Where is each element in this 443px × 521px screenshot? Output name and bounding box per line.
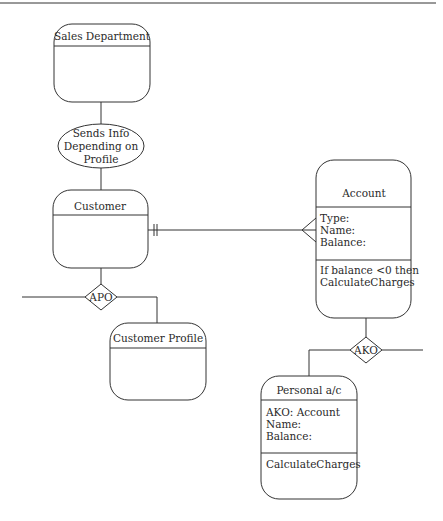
connector-customer-to-account <box>148 218 316 242</box>
relationship-label: APO <box>88 291 113 303</box>
connector-ako-to-personal <box>309 350 350 376</box>
process-label-line: Profile <box>84 153 119 165</box>
entity-method: CalculateCharges <box>266 458 361 470</box>
relationship-ako[interactable]: AKO <box>350 337 382 363</box>
entity-account[interactable]: Account Type: Name: Balance: If balance … <box>316 160 419 318</box>
entity-attribute: Balance: <box>266 430 312 442</box>
entity-attribute: AKO: Account <box>265 406 341 418</box>
entity-title: Account <box>341 187 386 199</box>
relationship-label: AKO <box>353 344 378 356</box>
diagram-canvas: Sales Department Sends Info Depending on… <box>0 0 443 521</box>
entity-sales-department[interactable]: Sales Department <box>54 24 151 102</box>
relationship-apo[interactable]: APO <box>85 284 117 310</box>
entity-attribute: Name: <box>320 224 355 236</box>
entity-title: Sales Department <box>54 30 151 42</box>
entity-customer-profile[interactable]: Customer Profile <box>110 323 206 400</box>
entity-personal-account[interactable]: Personal a/c AKO: Account Name: Balance:… <box>261 376 361 499</box>
entity-method: CalculateCharges <box>320 276 415 288</box>
entity-attribute: Type: <box>320 212 349 224</box>
process-sends-info[interactable]: Sends Info Depending on Profile <box>58 124 144 168</box>
process-label-line: Depending on <box>64 140 139 152</box>
entity-title: Personal a/c <box>277 384 342 396</box>
connector-apo-to-customer-profile <box>117 297 157 323</box>
entity-title: Customer <box>74 200 127 212</box>
entity-attribute: Balance: <box>320 236 366 248</box>
entity-title: Customer Profile <box>113 332 203 344</box>
entity-customer[interactable]: Customer <box>53 190 148 268</box>
process-label-line: Sends Info <box>73 127 130 139</box>
entity-method: If balance <0 then <box>320 264 419 276</box>
entity-attribute: Name: <box>266 418 301 430</box>
